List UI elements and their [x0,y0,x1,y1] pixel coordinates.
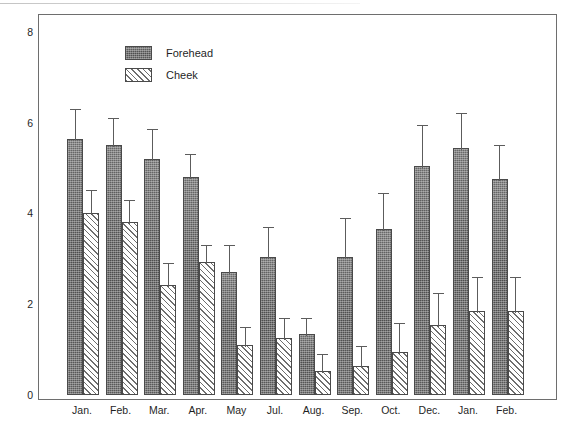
bar-forehead-3-error-bar [183,154,199,179]
error-bar-cap [163,263,174,264]
error-bar-stem [168,263,169,287]
bar-cheek-3 [199,262,215,395]
error-bar-stem [499,145,500,181]
error-bar-stem [322,354,323,374]
error-bar-stem [306,318,307,336]
error-bar-cap [224,245,235,246]
bar-forehead-6 [299,334,315,395]
bar-cheek-5-error-bar [276,318,292,341]
bar-cheek-6-error-bar [315,354,331,374]
bar-cheek-1 [122,222,138,395]
error-bar-cap [378,193,389,194]
error-bar-cap [279,318,290,319]
error-bar-cap [394,323,405,324]
error-bar-cap [124,200,135,201]
legend-swatch-cheek-icon [125,68,152,82]
error-bar-stem [399,323,400,353]
bar-forehead-7-error-bar [337,218,353,259]
error-bar-stem [75,109,76,141]
bar-forehead-4-error-bar [221,245,237,275]
bar-forehead-8-error-bar [376,193,392,232]
bar-cheek-6 [315,371,331,395]
bar-cheek-3-error-bar [199,245,215,265]
bar-cheek-9 [430,325,446,395]
error-bar-stem [515,277,516,313]
bar-cheek-10 [469,311,485,395]
error-bar-stem [206,245,207,265]
error-bar-cap [70,109,81,110]
error-bar-stem [422,125,423,168]
bar-forehead-11-error-bar [492,145,508,181]
error-bar-stem [245,327,246,347]
bar-cheek-0 [83,213,99,395]
chart-legend: Forehead Cheek [125,42,213,86]
bar-forehead-9 [414,166,430,395]
bar-cheek-5 [276,338,292,395]
bar-forehead-6-error-bar [299,318,315,336]
error-bar-stem [345,218,346,259]
error-bar-cap [86,190,97,191]
bar-forehead-1-error-bar [106,118,122,148]
error-bar-stem [438,293,439,327]
error-bar-cap [301,318,312,319]
legend-label-cheek: Cheek [166,69,198,81]
error-bar-stem [190,154,191,179]
error-bar-cap [356,346,367,347]
bar-forehead-10-error-bar [453,113,469,149]
y-tick-label: 8 [7,26,33,38]
bar-forehead-4 [221,272,237,395]
error-bar-stem [268,227,269,259]
bar-cheek-4 [237,345,253,395]
y-tick-label: 6 [7,117,33,129]
y-tick-label: 2 [7,298,33,310]
bar-cheek-0-error-bar [83,190,99,215]
legend-item-forehead: Forehead [125,42,213,64]
plot-frame: Forehead Cheek [38,14,557,400]
error-bar-cap [263,227,274,228]
legend-swatch-forehead-icon [125,46,152,60]
error-bar-cap [494,145,505,146]
y-tick-label: 0 [7,389,33,401]
error-bar-cap [340,218,351,219]
bar-chart-figure: Average Score 02468 Forehead Cheek Jan.F… [0,0,567,431]
error-bar-stem [361,346,362,367]
bar-forehead-8 [376,229,392,395]
error-bar-cap [417,125,428,126]
bar-forehead-5 [260,257,276,395]
bar-forehead-11 [492,179,508,395]
x-tick-label: Feb. [472,404,542,416]
error-bar-stem [91,190,92,215]
error-bar-stem [461,113,462,149]
error-bar-stem [129,200,130,225]
error-bar-cap [510,277,521,278]
bar-cheek-2-error-bar [160,263,176,287]
legend-item-cheek: Cheek [125,64,213,86]
bar-cheek-7-error-bar [353,346,369,367]
bar-cheek-11 [508,311,524,395]
bar-cheek-11-error-bar [508,277,524,313]
bar-cheek-2 [160,285,176,395]
bar-forehead-10 [453,148,469,395]
bar-forehead-0 [67,139,83,396]
error-bar-stem [229,245,230,275]
error-bar-cap [317,354,328,355]
error-bar-stem [152,129,153,161]
legend-label-forehead: Forehead [166,47,213,59]
bar-forehead-2-error-bar [144,129,160,161]
bar-cheek-1-error-bar [122,200,138,225]
y-tick-label: 4 [7,207,33,219]
error-bar-cap [472,277,483,278]
bar-cheek-10-error-bar [469,277,485,313]
bar-forehead-9-error-bar [414,125,430,168]
error-bar-cap [201,245,212,246]
bar-forehead-7 [337,257,353,395]
error-bar-stem [383,193,384,232]
bar-cheek-8 [392,352,408,395]
bar-forehead-3 [183,177,199,395]
bar-cheek-8-error-bar [392,323,408,353]
error-bar-cap [433,293,444,294]
error-bar-stem [284,318,285,341]
error-bar-stem [477,277,478,313]
bar-forehead-5-error-bar [260,227,276,259]
error-bar-stem [113,118,114,148]
